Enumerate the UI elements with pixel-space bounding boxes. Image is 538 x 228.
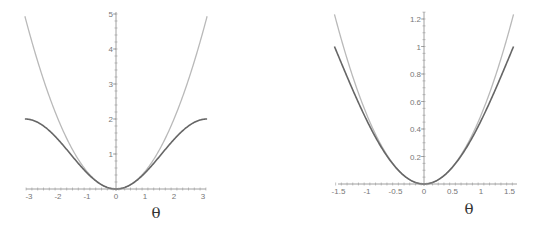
x-tick-label: -1 xyxy=(83,192,91,201)
y-tick-label: 1.2 xyxy=(410,15,422,24)
y-tick-label: 3 xyxy=(109,80,114,89)
y-tick-label: 0.4 xyxy=(410,125,422,134)
right-plot-canvas: -1.5-1-0.500.511.50.20.40.60.811.2 θ xyxy=(270,0,538,228)
x-tick-label: -0.5 xyxy=(389,187,403,196)
y-tick-label: 0.2 xyxy=(410,153,422,162)
x-tick-label: 0.5 xyxy=(447,187,459,196)
y-tick-label: 5 xyxy=(109,10,114,19)
y-tick-label: 4 xyxy=(109,45,114,54)
y-tick-label: 0.8 xyxy=(410,70,422,79)
y-tick-label: 1 xyxy=(417,43,422,52)
x-tick-label: -1.5 xyxy=(332,187,346,196)
x-tick-label: -2 xyxy=(54,192,62,201)
left-plot: -3-2-1012312345 θ xyxy=(0,0,270,228)
x-tick-label: 3 xyxy=(201,192,206,201)
x-tick-label: 1.5 xyxy=(504,187,516,196)
y-tick-label: 1 xyxy=(109,150,114,159)
x-tick-label: 1 xyxy=(143,192,148,201)
y-tick-label: 0.6 xyxy=(410,98,422,107)
x-tick-label: 0 xyxy=(114,192,119,201)
x-tick-label: -1 xyxy=(363,187,371,196)
x-tick-label: 0 xyxy=(422,187,427,196)
y-tick-label: 2 xyxy=(109,115,114,124)
x-tick-label: -3 xyxy=(25,192,33,201)
x-tick-label: 2 xyxy=(172,192,177,201)
right-plot: -1.5-1-0.500.511.50.20.40.60.811.2 θ xyxy=(270,0,538,228)
right-x-axis-title: θ xyxy=(464,200,473,218)
left-x-axis-title: θ xyxy=(151,204,160,222)
x-tick-label: 1 xyxy=(479,187,484,196)
left-plot-canvas: -3-2-1012312345 θ xyxy=(0,0,270,228)
